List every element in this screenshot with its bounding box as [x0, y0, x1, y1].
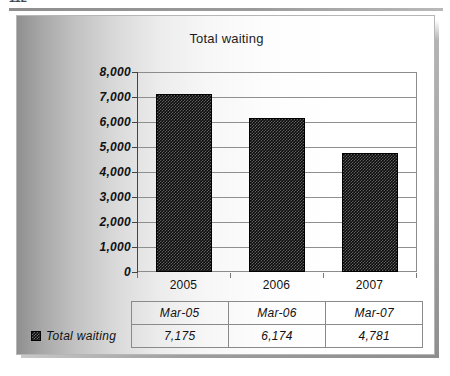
table-column-header-mar-05: Mar-05: [131, 302, 228, 325]
y-tick-label: 5,000: [57, 140, 131, 154]
x-tick-label-2007: 2007: [323, 278, 416, 292]
table-cell-mar-05: 7,175: [131, 325, 228, 348]
bar-2005[interactable]: [156, 94, 212, 272]
y-tick-label: 2,000: [57, 215, 131, 229]
table-column-header-mar-07: Mar-07: [326, 302, 423, 325]
y-tick: [132, 197, 137, 198]
table-row: Total waiting 7,175 6,174 4,781: [25, 325, 423, 348]
y-tick: [132, 222, 137, 223]
x-tick-label-2005: 2005: [137, 278, 230, 292]
y-tick: [132, 122, 137, 123]
series-swatch-icon: [31, 331, 41, 341]
bars-layer: [138, 73, 416, 272]
y-tick: [132, 247, 137, 248]
bar-2007[interactable]: [342, 153, 398, 272]
legend-entry-total-waiting[interactable]: Total waiting: [25, 325, 131, 348]
clipped-page-header-text: 112: [9, 0, 39, 4]
table-header-row: Mar-05 Mar-06 Mar-07: [25, 302, 423, 325]
y-tick: [132, 147, 137, 148]
table-cell-mar-06: 6,174: [228, 325, 325, 348]
table-cell-mar-07: 4,781: [326, 325, 423, 348]
x-tick-label-2006: 2006: [230, 278, 323, 292]
x-tick: [416, 273, 417, 278]
table-corner-cell: [25, 302, 131, 325]
y-tick: [132, 172, 137, 173]
y-tick-label: 1,000: [57, 240, 131, 254]
horizontal-rule: [9, 8, 443, 11]
table-column-header-mar-06: Mar-06: [228, 302, 325, 325]
legend-label: Total waiting: [46, 329, 116, 343]
clipped-page-header: 112: [9, 0, 39, 4]
bar-2006[interactable]: [249, 118, 305, 272]
y-tick: [132, 97, 137, 98]
chart-card: Total waiting 8,000 7,000 6,000 5,000 4,…: [16, 15, 435, 355]
y-tick-label: 6,000: [57, 115, 131, 129]
y-tick-label: 0: [57, 265, 131, 279]
data-table: Mar-05 Mar-06 Mar-07 Total waiting 7,175…: [25, 301, 423, 348]
y-tick-label: 4,000: [57, 165, 131, 179]
y-tick-label: 8,000: [57, 65, 131, 79]
y-tick: [132, 72, 137, 73]
y-tick-label: 7,000: [57, 90, 131, 104]
y-tick-label: 3,000: [57, 190, 131, 204]
